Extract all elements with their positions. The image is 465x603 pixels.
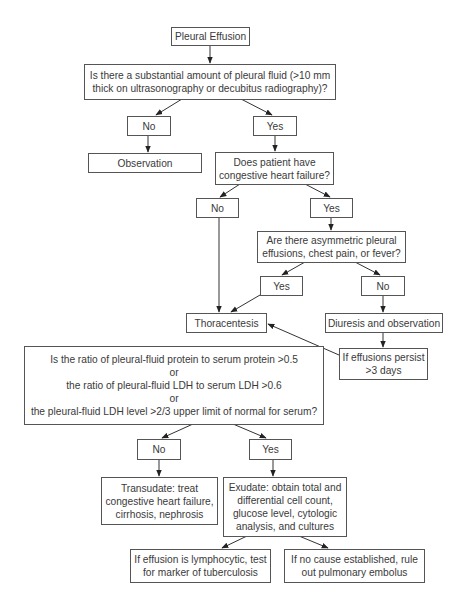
node-text: out pulmonary embolus [302, 566, 408, 579]
node-text: cirrhosis, nephrosis [116, 508, 204, 521]
node-pulmonary-embolus: If no cause established, rule out pulmon… [284, 549, 425, 583]
node-answer-no-criteria: No [137, 439, 181, 460]
node-question-chf: Does patient have congestive heart failu… [215, 152, 334, 185]
node-lymphocytic-tuberculosis: If effusion is lymphocytic, test for mar… [130, 549, 271, 583]
node-text: analysis, and cultures [236, 520, 334, 533]
node-text: Yes [267, 120, 284, 133]
node-text: If no cause established, rule [291, 553, 418, 566]
node-text: thick on ultrasonography or decubitus ra… [92, 82, 327, 95]
node-answer-yes-asymmetric: Yes [260, 276, 303, 296]
node-text: the ratio of pleural-fluid LDH to serum … [66, 379, 281, 392]
node-text: Exudate: obtain total and [229, 481, 342, 494]
node-text: Thoracentesis [195, 317, 259, 330]
node-text: Are there asymmetric pleural [266, 234, 396, 247]
node-text: for marker of tuberculosis [143, 566, 258, 579]
node-text: Does patient have [233, 156, 315, 169]
node-text: Yes [323, 202, 340, 215]
node-text: Transudate: treat [121, 482, 198, 495]
node-transudate: Transudate: treat congestive heart failu… [101, 477, 218, 525]
node-text: congestive heart failure? [219, 169, 330, 182]
node-text: >3 days [366, 364, 402, 377]
node-question-substantial-fluid: Is there a substantial amount of pleural… [84, 64, 336, 100]
node-text: effusions, chest pain, or fever? [262, 247, 401, 260]
node-text: No [142, 120, 155, 133]
node-text: No [211, 202, 224, 215]
node-diuresis-observation: Diuresis and observation [325, 313, 443, 333]
node-text: Pleural Effusion [175, 30, 246, 43]
node-text: Observation [118, 157, 173, 170]
node-text: glucose level, cytologic [233, 507, 337, 520]
node-effusions-persist: If effusions persist >3 days [339, 348, 428, 380]
node-text: Yes [262, 443, 279, 456]
node-text: Is the ratio of pleural-fluid protein to… [50, 353, 298, 366]
node-answer-no-fluid: No [127, 116, 171, 136]
node-answer-yes-chf: Yes [310, 198, 353, 218]
node-text: or [169, 392, 178, 405]
node-answer-no-chf: No [196, 198, 239, 218]
node-text: No [376, 280, 389, 293]
node-text: No [152, 443, 165, 456]
node-text: differential cell count, [237, 494, 333, 507]
node-pleural-effusion: Pleural Effusion [171, 27, 250, 46]
node-question-light-criteria: Is the ratio of pleural-fluid protein to… [24, 346, 324, 425]
node-text: the pleural-fluid LDH level >2/3 upper l… [31, 405, 317, 418]
node-thoracentesis: Thoracentesis [186, 313, 267, 333]
node-text: or [169, 366, 178, 379]
node-question-asymmetric: Are there asymmetric pleural effusions, … [257, 231, 406, 263]
node-text: Diuresis and observation [328, 317, 440, 330]
node-text: Is there a substantial amount of pleural… [90, 69, 330, 82]
node-answer-yes-fluid: Yes [253, 116, 297, 136]
node-text: Yes [273, 280, 290, 293]
node-observation: Observation [88, 153, 202, 173]
node-exudate: Exudate: obtain total and differential c… [223, 477, 347, 537]
node-text: If effusions persist [343, 351, 425, 364]
node-answer-yes-criteria: Yes [249, 439, 292, 460]
node-text: congestive heart failure, [105, 495, 213, 508]
pleural-effusion-flowchart: Pleural Effusion Is there a substantial … [0, 0, 465, 603]
node-answer-no-asymmetric: No [361, 276, 405, 296]
node-text: If effusion is lymphocytic, test [134, 553, 266, 566]
